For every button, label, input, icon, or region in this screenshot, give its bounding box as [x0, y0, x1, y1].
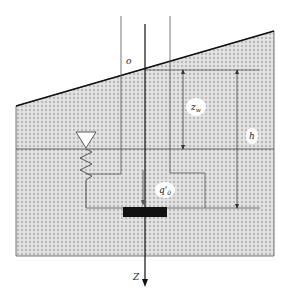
h-label: h [249, 131, 255, 141]
source-block [123, 207, 167, 217]
z-axis-arrow-icon [142, 279, 148, 287]
soil-diagram: o zw h q'0 Z [0, 0, 286, 296]
z-axis-label: Z [132, 272, 140, 282]
origin-label: o [126, 56, 132, 66]
